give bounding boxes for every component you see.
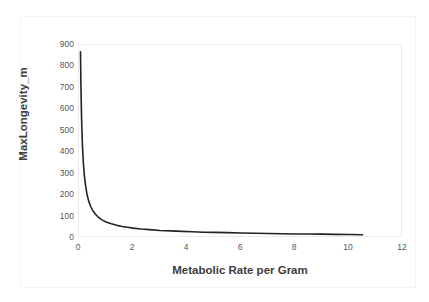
x-axis-title: Metabolic Rate per Gram [78, 264, 402, 276]
y-tick-label: 700 [48, 83, 74, 92]
x-tick-label: 4 [171, 243, 201, 252]
curve-plot [79, 45, 403, 238]
y-tick-label: 400 [48, 147, 74, 156]
y-tick-label: 600 [48, 104, 74, 113]
data-series-line [80, 52, 362, 235]
y-tick-label: 800 [48, 61, 74, 70]
x-tick-label: 12 [387, 243, 417, 252]
chart-figure: 9008007006005004003002001000 024681012 M… [0, 0, 429, 302]
y-tick-label: 0 [48, 233, 74, 242]
x-tick-label: 10 [333, 243, 363, 252]
y-tick-label: 500 [48, 126, 74, 135]
y-axis-title: MaxLongevity_m [17, 44, 29, 184]
y-tick-label: 100 [48, 211, 74, 220]
x-tick-label: 6 [225, 243, 255, 252]
y-axis-tick-labels: 9008007006005004003002001000 [46, 44, 74, 237]
y-tick-label: 900 [48, 40, 74, 49]
plot-area [78, 44, 402, 237]
y-tick-label: 200 [48, 190, 74, 199]
x-axis-tick-labels: 024681012 [78, 243, 402, 257]
x-tick-label: 8 [279, 243, 309, 252]
x-tick-label: 0 [63, 243, 93, 252]
y-tick-label: 300 [48, 168, 74, 177]
x-tick-label: 2 [117, 243, 147, 252]
